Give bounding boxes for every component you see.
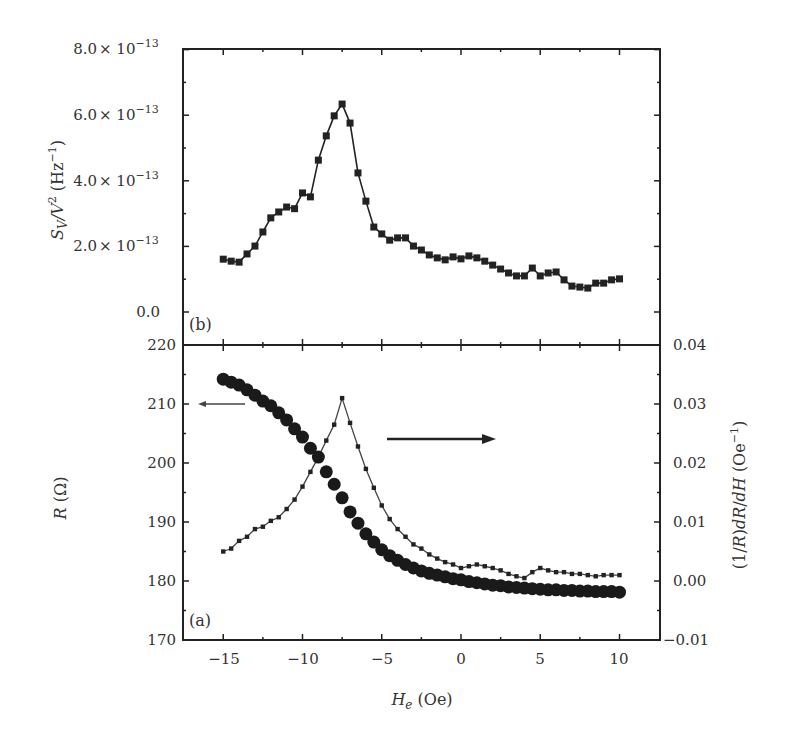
tick-exponent: × 10−13 (99, 169, 159, 190)
x-axis-title: He (Oe) (390, 690, 452, 712)
panel-b-y-tick-exponents: × 10−13 × 10−13 × 10−13 × 10−13 (99, 37, 159, 255)
derivative-marker (245, 535, 249, 539)
tick-label: 0.03 (673, 395, 706, 413)
sv-noise-marker (307, 193, 314, 200)
sv-noise-marker (370, 224, 377, 231)
derivative-marker (364, 467, 368, 471)
sv-noise-marker (402, 234, 409, 241)
derivative-marker (261, 525, 265, 529)
sv-noise-marker (259, 228, 266, 235)
tick-label: −0.01 (663, 631, 709, 649)
panel-b-y-axis-title: SV/V2 (Hz−1) (46, 140, 70, 240)
panel-a-right-axis-title: (1/R)dR/dH (Oe−1) (728, 421, 749, 569)
tick-label: 2.0 (73, 237, 97, 255)
tick-exponent: × 10−13 (99, 103, 159, 124)
derivative-marker (356, 444, 360, 448)
derivative-marker (570, 572, 574, 576)
sv-noise-marker (497, 266, 504, 273)
sv-noise-marker (584, 285, 591, 292)
sv-noise-marker (362, 198, 369, 205)
derivative-marker (269, 519, 273, 523)
figure: 0.0 2.0 4.0 6.0 8.0 × 10−13 × 10−13 × 10… (0, 0, 785, 748)
tick-label: 0.00 (673, 572, 706, 590)
derivative-marker (459, 566, 463, 570)
tick-label: −10 (287, 650, 319, 668)
tick-label: 0.01 (673, 513, 706, 531)
sv-noise-marker (505, 269, 512, 276)
sv-noise-marker (323, 132, 330, 139)
tick-label: 0.02 (673, 454, 706, 472)
sv-noise-marker (600, 280, 607, 287)
derivative-marker (237, 539, 241, 543)
derivative-marker (348, 421, 352, 425)
sv-noise-marker (561, 276, 568, 283)
derivative-marker (514, 574, 518, 578)
sv-noise-marker (513, 272, 520, 279)
panel-a-left-tick-labels: 170 180 190 200 210 220 (147, 336, 176, 649)
panel-a-right-tick-labels: −0.01 0.00 0.01 0.02 0.03 0.04 (663, 336, 709, 649)
derivative-marker (300, 484, 304, 488)
derivative-marker (221, 549, 225, 553)
sv-noise-marker (521, 272, 528, 279)
sv-noise-line (223, 104, 619, 288)
derivative-marker (380, 503, 384, 507)
derivative-marker (427, 552, 431, 556)
sv-noise-marker (394, 234, 401, 241)
resistance-marker (336, 491, 349, 504)
derivative-marker (467, 564, 471, 568)
sv-noise-marker (545, 269, 552, 276)
resistance-marker (613, 586, 626, 599)
tick-label: 10 (609, 650, 628, 668)
tick-label: 4.0 (73, 172, 97, 190)
resistance-marker (328, 478, 341, 491)
resistance-marker (344, 505, 357, 518)
sv-noise-marker (450, 253, 457, 260)
sv-noise-marker (347, 120, 354, 127)
derivative-marker (491, 566, 495, 570)
derivative-marker (594, 574, 598, 578)
sv-noise-marker (529, 265, 536, 272)
derivative-marker (411, 542, 415, 546)
data-series (217, 101, 626, 599)
sv-noise-marker (251, 243, 258, 250)
panel-b-label: (b) (189, 315, 212, 334)
panel-b-frame (183, 49, 660, 345)
sv-noise-marker (537, 272, 544, 279)
derivative-marker (554, 570, 558, 574)
derivative-marker (340, 396, 344, 400)
tick-label: 180 (147, 572, 176, 590)
tick-label: 220 (147, 336, 176, 354)
sv-noise-marker (465, 252, 472, 259)
sv-noise-marker (481, 258, 488, 265)
derivative-marker (578, 572, 582, 576)
derivative-marker (253, 527, 257, 531)
derivative-marker (277, 515, 281, 519)
resistance-marker (320, 465, 333, 478)
tick-exponent: × 10−13 (99, 234, 159, 255)
sv-noise-marker (299, 189, 306, 196)
sv-noise-marker (378, 230, 385, 237)
sv-noise-marker (283, 204, 290, 211)
sv-noise-marker (331, 112, 338, 119)
derivative-marker (443, 560, 447, 564)
derivative-marker (451, 562, 455, 566)
sv-noise-marker (426, 251, 433, 258)
derivative-marker (498, 568, 502, 572)
sv-noise-marker (220, 256, 227, 263)
sv-noise-marker (616, 275, 623, 282)
resistance-marker (296, 431, 309, 444)
derivative-marker (530, 570, 534, 574)
derivative-marker (395, 527, 399, 531)
sv-noise-marker (228, 258, 235, 265)
derivative-marker (332, 422, 336, 426)
tick-label: 190 (147, 513, 176, 531)
sv-noise-marker (236, 259, 243, 266)
derivative-marker (475, 562, 479, 566)
derivative-line (223, 398, 619, 578)
derivative-marker (483, 564, 487, 568)
tick-label: 5 (535, 650, 545, 668)
derivative-marker (229, 546, 233, 550)
sv-noise-marker (267, 214, 274, 221)
left-axis-arrow-icon (198, 401, 245, 407)
sv-noise-marker (473, 254, 480, 261)
